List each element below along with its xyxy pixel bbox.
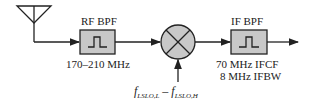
rf-bpf-block xyxy=(80,30,115,54)
mixer-icon xyxy=(161,25,195,59)
if-bpf-label: IF BPF xyxy=(231,15,263,27)
if-bpf-block xyxy=(231,30,267,54)
antenna-icon xyxy=(17,6,51,42)
lo-frequency-label: fLSLO,L – fLSLO,H xyxy=(134,85,198,102)
if-bpf-caption-bandwidth: 8 MHz IFBW xyxy=(220,70,281,82)
rf-bpf-label: RF BPF xyxy=(81,15,117,27)
rf-bpf-caption: 170–210 MHz xyxy=(66,58,130,70)
if-bpf-caption-center-frequency: 70 MHz IFCF xyxy=(216,58,278,70)
